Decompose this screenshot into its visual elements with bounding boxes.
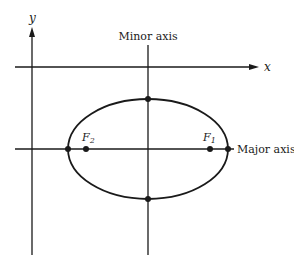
y-axis-label: y [28, 11, 36, 25]
focus-f1-dot [207, 146, 213, 152]
y-axis: y [28, 11, 36, 255]
focus-f2-dot [83, 146, 89, 152]
y-axis-arrow-icon [29, 27, 35, 37]
x-axis-arrow-icon [249, 64, 259, 70]
major-axis: Major axis [15, 143, 294, 156]
left-vertex-dot [65, 146, 71, 152]
major-axis-label: Major axis [237, 143, 294, 156]
right-vertex-dot [225, 146, 231, 152]
focus-f2-label: F2 [81, 131, 95, 145]
minor-axis-label: Minor axis [118, 30, 178, 43]
top-covertex-dot [145, 96, 151, 102]
minor-axis: Minor axis [118, 30, 178, 255]
x-axis-label: x [264, 60, 271, 74]
focus-f1-label: F1 [202, 131, 216, 145]
ellipse-diagram: y x Minor axis Major axis F2 [0, 0, 294, 268]
bottom-covertex-dot [145, 196, 151, 202]
x-axis: x [15, 60, 271, 74]
